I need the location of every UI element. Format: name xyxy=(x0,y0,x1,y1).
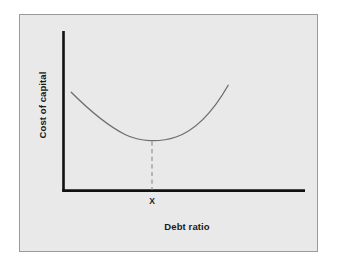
figure-root: Cost of capital Debt ratio X xyxy=(0,0,337,269)
chart-panel xyxy=(19,14,318,252)
y-axis-title: Cost of capital xyxy=(38,72,48,139)
minimum-point-label: X xyxy=(149,197,155,206)
x-axis-title: Debt ratio xyxy=(164,222,209,232)
